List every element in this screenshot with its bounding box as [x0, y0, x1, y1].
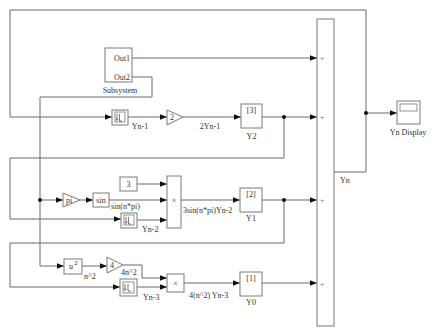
function-name: sin — [96, 196, 105, 205]
sum-sign: + — [320, 280, 325, 289]
gain-pi-block[interactable]: pi — [63, 193, 80, 207]
goto-tag: [3] — [247, 106, 257, 115]
display-label: Yn Display — [390, 128, 427, 137]
goto-tag: [1] — [246, 274, 256, 283]
signal-label-yn1: Yn-1 — [132, 122, 148, 131]
subsystem-block[interactable]: Out1 Out2 — [105, 48, 132, 82]
unit-delay-yn3-block[interactable] — [120, 279, 137, 296]
sum-block[interactable]: + + + + — [317, 19, 334, 326]
square-block[interactable]: u 2 — [64, 259, 82, 274]
simulink-diagram: Out1 Out2 Subsystem Yn-1 2 2Yn-1 [3] Y2 … — [0, 0, 436, 333]
constant-value: 3 — [127, 180, 131, 189]
branch-point — [38, 198, 42, 202]
goto-label-y2: Y2 — [247, 132, 257, 141]
goto-label-y0: Y0 — [246, 298, 256, 307]
square-exponent: 2 — [74, 259, 78, 267]
wire-yn-feedback-top — [10, 10, 366, 172]
unit-delay-yn1-block[interactable] — [112, 110, 128, 125]
goto-3-block[interactable]: [3] — [241, 104, 262, 128]
goto-label-y1: Y1 — [246, 214, 256, 223]
yn-display-block[interactable] — [397, 101, 420, 124]
port-out1-label: Out1 — [114, 54, 130, 63]
signal-label-3sin: 3sin(n*pi)Yn-2 — [183, 206, 232, 215]
signal-label-n2: n^2 — [84, 272, 96, 281]
square-base: u — [69, 262, 73, 271]
wires — [10, 10, 397, 287]
product-2-block[interactable]: × — [167, 274, 184, 292]
sum-sign: + — [320, 196, 325, 205]
signal-label-yn: Yn — [340, 176, 350, 185]
unit-delay-yn2-block[interactable] — [121, 213, 137, 228]
signal-label-yn2: Yn-2 — [142, 225, 158, 234]
sin-block[interactable]: sin — [93, 193, 109, 207]
signal-label-4n2yn3: 4(n^2) Yn-3 — [189, 291, 228, 300]
signal-label-yn3: Yn-3 — [143, 293, 159, 302]
goto-1-block[interactable]: [1] — [240, 272, 262, 296]
branch-point — [364, 111, 368, 115]
gain-value: 2 — [170, 113, 174, 122]
product-1-block[interactable]: × — [167, 176, 181, 228]
product-symbol: × — [173, 279, 178, 288]
signal-label-4n2: 4n^2 — [121, 268, 137, 277]
branch-point — [282, 115, 286, 119]
wire-out2-n — [40, 77, 152, 266]
goto-tag: [2] — [246, 190, 256, 199]
goto-2-block[interactable]: [2] — [240, 188, 262, 212]
constant-3-block[interactable]: 3 — [120, 177, 137, 191]
sum-sign: + — [320, 113, 325, 122]
signal-label-sin: sin(n*pi) — [111, 202, 140, 211]
signal-label-2yn1: 2Yn-1 — [200, 122, 220, 131]
sum-sign: + — [320, 54, 325, 63]
gain-value: pi — [66, 196, 73, 205]
gain-2-block[interactable]: 2 — [167, 110, 183, 125]
subsystem-label: Subsystem — [103, 86, 138, 95]
product-symbol: × — [172, 196, 177, 205]
branch-point — [282, 198, 286, 202]
gain-value: 4 — [110, 261, 114, 270]
port-out2-label: Out2 — [114, 73, 130, 82]
